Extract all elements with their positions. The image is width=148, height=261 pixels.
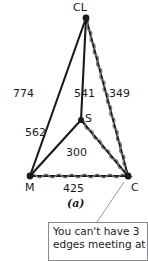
node-S[interactable]	[78, 117, 84, 123]
callout-line-2: edges meeting at	[53, 238, 147, 251]
edge-weight-m-c: 425	[63, 183, 84, 194]
edge-weight-cl-c: 349	[109, 88, 130, 99]
node-label-cl: CL	[73, 2, 87, 13]
node-label-c: C	[131, 182, 139, 193]
node-M[interactable]	[27, 173, 34, 180]
node-CL[interactable]	[83, 15, 90, 22]
edge-weight-cl-s: 541	[74, 88, 95, 99]
callout-leader-line	[97, 182, 124, 222]
node-C[interactable]	[125, 173, 132, 180]
edge-CL-S	[81, 18, 86, 120]
figure-container: CL M C S 774 541 349 562 300 425 (a) You…	[0, 0, 148, 261]
callout-box: You can't have 3 edges meeting at	[48, 222, 148, 261]
edge-weight-m-s: 562	[25, 127, 46, 138]
callout-line-1: You can't have 3	[53, 225, 147, 238]
node-label-s: S	[85, 113, 92, 124]
node-label-m: M	[25, 182, 35, 193]
edge-weight-s-c: 300	[66, 147, 87, 158]
edge-weight-cl-m: 774	[13, 88, 34, 99]
figure-caption: (a)	[67, 198, 85, 209]
